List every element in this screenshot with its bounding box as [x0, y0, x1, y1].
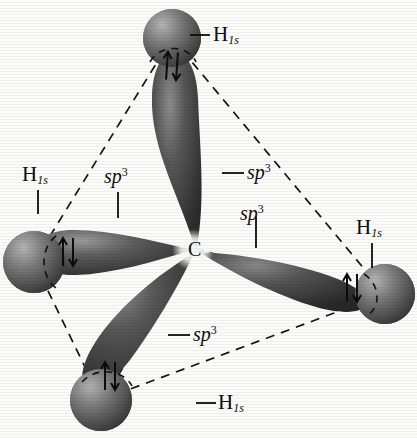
- h-subscript: 1s: [371, 226, 382, 240]
- orbital-diagram-figure: C H1s H1s H1s H1s sp3 sp3 sp3 sp3: [0, 0, 417, 438]
- h-element-symbol: H: [213, 22, 228, 46]
- sp-base: sp: [247, 161, 265, 183]
- sp-exponent: 3: [122, 165, 128, 179]
- hydrogen-cap-bottom: [70, 369, 132, 431]
- label-sp3-right: sp3: [240, 203, 264, 223]
- sp-base: sp: [193, 323, 211, 345]
- sp-exponent: 3: [258, 202, 264, 216]
- label-h1s-left: H1s: [22, 164, 48, 186]
- sp-exponent: 3: [265, 161, 271, 175]
- sp-base: sp: [240, 202, 258, 224]
- h-element-symbol: H: [218, 390, 233, 414]
- label-sp3-top: sp3: [247, 162, 271, 182]
- diagram-canvas: [0, 0, 417, 438]
- hydrogen-cap-right: [355, 264, 415, 324]
- label-sp3-bottom: sp3: [193, 324, 217, 344]
- h-element-symbol: H: [22, 162, 37, 186]
- hydrogen-cap-left: [3, 231, 65, 293]
- h-element-symbol: H: [356, 215, 371, 239]
- label-h1s-bottom: H1s: [218, 392, 244, 414]
- label-sp3-left: sp3: [104, 166, 128, 186]
- h-subscript: 1s: [228, 33, 239, 47]
- figure-background: [0, 0, 417, 438]
- sp-exponent: 3: [211, 323, 217, 337]
- carbon-atom-label: C: [188, 238, 201, 261]
- label-h1s-right: H1s: [356, 217, 382, 239]
- sp-base: sp: [104, 165, 122, 187]
- h-subscript: 1s: [233, 401, 244, 415]
- label-h1s-top: H1s: [213, 24, 239, 46]
- h-subscript: 1s: [37, 173, 48, 187]
